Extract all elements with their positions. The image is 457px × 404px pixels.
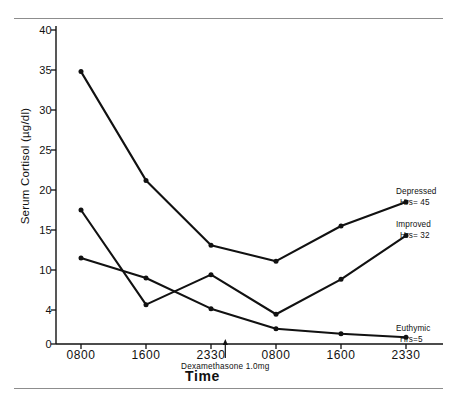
- data-point-improved-4[interactable]: [339, 277, 344, 282]
- data-point-euthymic-3[interactable]: [274, 326, 279, 331]
- data-point-depressed-4[interactable]: [339, 224, 344, 229]
- data-point-depressed-5[interactable]: [404, 200, 409, 205]
- data-point-depressed-2[interactable]: [209, 243, 214, 248]
- data-point-improved-0[interactable]: [79, 208, 84, 213]
- data-point-euthymic-2[interactable]: [209, 306, 214, 311]
- data-point-depressed-1[interactable]: [144, 178, 149, 183]
- data-point-euthymic-0[interactable]: [79, 256, 84, 261]
- series-line-improved: [81, 210, 406, 314]
- series-improved: [79, 208, 409, 317]
- series-line-depressed: [81, 72, 406, 262]
- dexamethasone-arrow-head: [223, 339, 228, 345]
- data-point-euthymic-5[interactable]: [404, 335, 409, 340]
- data-point-euthymic-4[interactable]: [339, 331, 344, 336]
- figure-container: Serum Cortisol (µg/dl) 40 35 30 25 20 15…: [0, 0, 457, 404]
- data-point-improved-3[interactable]: [274, 312, 279, 317]
- axes-group: [51, 26, 443, 349]
- data-point-euthymic-1[interactable]: [144, 276, 149, 281]
- dexamethasone-arrow-icon: [223, 339, 228, 358]
- series-lines-group: [79, 69, 409, 340]
- data-point-depressed-0[interactable]: [79, 69, 84, 74]
- plot-area: [0, 0, 457, 404]
- data-point-improved-5[interactable]: [404, 233, 409, 238]
- data-point-depressed-3[interactable]: [274, 259, 279, 264]
- series-depressed: [79, 69, 409, 264]
- y-tick-marks: [51, 30, 56, 344]
- data-point-improved-1[interactable]: [144, 302, 149, 307]
- series-line-euthymic: [81, 258, 406, 337]
- x-tick-marks: [81, 344, 406, 349]
- data-point-improved-2[interactable]: [209, 272, 214, 277]
